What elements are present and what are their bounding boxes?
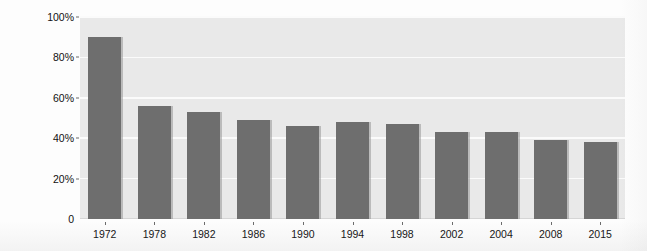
x-axis-tick-mark [600,222,601,225]
y-axis-tick-label: 20% [38,173,74,185]
gridline [80,97,625,99]
x-axis-tick-label: 1986 [229,228,278,240]
bar [435,132,468,219]
bar [386,124,419,219]
y-axis-tick-label: 60% [38,92,74,104]
bar [138,106,171,219]
y-axis-tick-mark [76,138,79,139]
bar [286,126,319,219]
y-axis-tick-mark [76,97,79,98]
bar [237,120,270,219]
x-axis-tick-mark [303,222,304,225]
gridline [80,57,625,59]
bar [187,112,220,219]
plot-area [80,17,625,219]
bar [485,132,518,219]
x-axis-tick-mark [402,222,403,225]
x-axis-tick-label: 1998 [378,228,427,240]
y-axis-tick-labels: 020%40%60%80%100% [38,0,74,251]
x-axis-tick-mark [154,222,155,225]
x-axis-tick-labels: 1972197819821986199019941998200220042008… [80,222,625,242]
x-axis-tick-label: 1994 [328,228,377,240]
x-axis-tick-label: 1978 [130,228,179,240]
gridline [80,16,625,18]
x-axis-tick-mark [501,222,502,225]
bar-chart-figure: Percentage of college teams coached by w… [0,0,647,251]
y-axis-tick-label: 100% [38,11,74,23]
y-axis-tick-mark [76,57,79,58]
x-axis-tick-label: 2004 [477,228,526,240]
y-axis-tick-label: 80% [38,51,74,63]
y-axis-tick-mark [76,17,79,18]
y-axis-tick-label: 0 [38,213,74,225]
x-axis-tick-label: 1982 [179,228,228,240]
bar [88,37,121,219]
x-axis-tick-label: 2015 [576,228,625,240]
bar [336,122,369,219]
bar [584,142,617,219]
x-axis-tick-label: 1990 [278,228,327,240]
x-axis-tick-label: 2008 [526,228,575,240]
bar [534,140,567,219]
x-axis-tick-mark [253,222,254,225]
x-axis-tick-mark [452,222,453,225]
x-axis-tick-label: 1972 [80,228,129,240]
y-axis-tick-label: 40% [38,132,74,144]
x-axis-tick-mark [551,222,552,225]
y-axis-tick-mark [76,178,79,179]
x-axis-tick-mark [204,222,205,225]
x-axis-tick-mark [353,222,354,225]
x-axis-tick-mark [105,222,106,225]
x-axis-tick-label: 2002 [427,228,476,240]
